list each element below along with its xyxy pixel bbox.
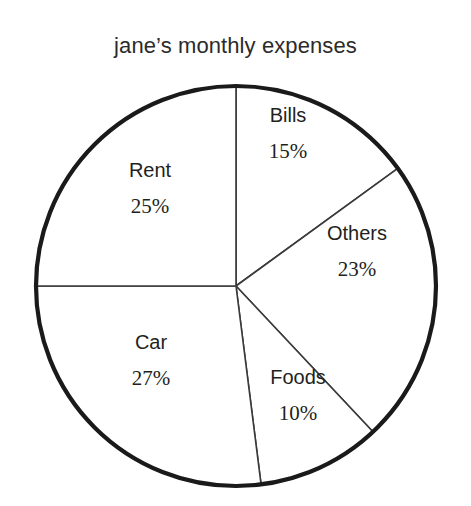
- slice-label-bills: Bills 15%: [233, 104, 343, 163]
- slice-label-others: Others 23%: [305, 222, 409, 281]
- slice-value-rent: 25%: [92, 195, 208, 218]
- slice-name-bills: Bills: [233, 104, 343, 126]
- slice-label-car: Car 27%: [95, 331, 207, 390]
- slice-value-car: 27%: [95, 367, 207, 390]
- slice-name-rent: Rent: [92, 159, 208, 181]
- slice-value-bills: 15%: [233, 140, 343, 163]
- slice-name-car: Car: [95, 331, 207, 353]
- slice-name-others: Others: [305, 222, 409, 244]
- pie-chart-figure: jane’s monthly expenses Bills 15% Others…: [0, 0, 471, 506]
- slice-label-rent: Rent 25%: [92, 159, 208, 218]
- slice-name-foods: Foods: [248, 366, 348, 388]
- slice-value-others: 23%: [305, 258, 409, 281]
- slice-value-foods: 10%: [248, 402, 348, 425]
- slice-label-foods: Foods 10%: [248, 366, 348, 425]
